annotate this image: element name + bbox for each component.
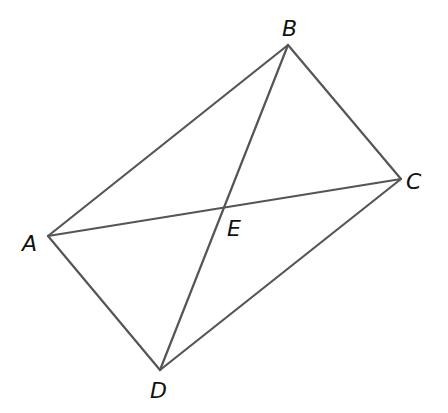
segment-ab <box>48 45 288 236</box>
label-b: B <box>282 16 297 41</box>
segment-cd <box>160 179 401 370</box>
segment-bc <box>288 45 401 179</box>
label-d: D <box>150 378 167 403</box>
label-a: A <box>20 231 37 256</box>
quadrilateral-diagram: A B C D E <box>0 0 448 413</box>
label-c: C <box>406 169 422 194</box>
diagonal-bd <box>160 45 288 370</box>
segment-da <box>48 236 160 370</box>
label-e: E <box>227 216 241 241</box>
edges <box>48 45 401 370</box>
